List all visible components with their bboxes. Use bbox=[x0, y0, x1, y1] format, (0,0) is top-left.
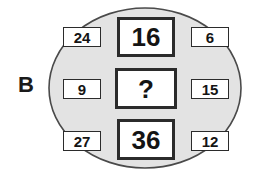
cell-right-bottom: 12 bbox=[191, 131, 229, 151]
cell-left-middle: 9 bbox=[63, 79, 101, 99]
cell-left-middle-value: 9 bbox=[78, 82, 86, 97]
cell-left-bottom-value: 27 bbox=[74, 134, 91, 149]
cell-left-top: 24 bbox=[63, 27, 101, 47]
puzzle-figure-panel: B 24 9 27 16 ? 36 6 15 12 bbox=[0, 0, 264, 176]
cell-right-middle: 15 bbox=[191, 79, 229, 99]
cell-center-top-value: 16 bbox=[132, 24, 161, 50]
cell-right-bottom-value: 12 bbox=[202, 134, 219, 149]
cell-center-bottom-value: 36 bbox=[132, 127, 161, 153]
cell-right-top-value: 6 bbox=[206, 30, 214, 45]
cell-center-bottom: 36 bbox=[117, 119, 175, 160]
cell-center-middle-answer[interactable]: ? bbox=[115, 68, 177, 109]
cell-center-middle-value: ? bbox=[138, 76, 154, 102]
cell-left-top-value: 24 bbox=[74, 30, 91, 45]
cell-right-middle-value: 15 bbox=[202, 82, 219, 97]
cell-center-top: 16 bbox=[117, 17, 175, 57]
cell-right-top: 6 bbox=[191, 27, 229, 47]
panel-label: B bbox=[10, 72, 42, 98]
cell-left-bottom: 27 bbox=[63, 131, 101, 151]
